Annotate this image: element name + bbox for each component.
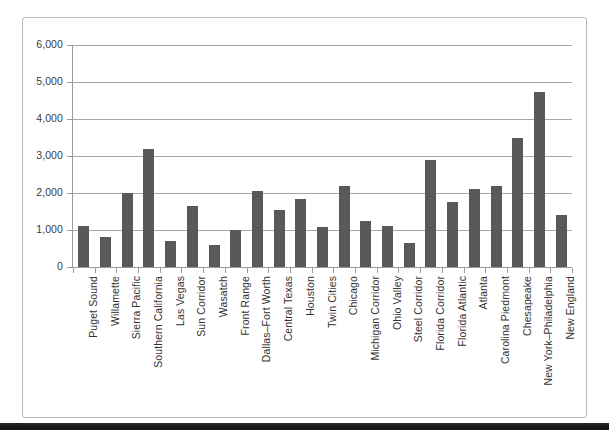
y-axis-tick [67, 267, 73, 268]
y-axis-label: 4,000 [1, 113, 63, 124]
x-axis-tick [420, 268, 421, 273]
bar [209, 245, 220, 267]
x-axis-tick [377, 268, 378, 273]
x-axis-label: Michigan Corridor [370, 276, 381, 361]
y-axis-labels: 01,0002,0003,0004,0005,0006,000 [0, 0, 63, 430]
bar [404, 243, 415, 267]
x-axis-label: Carolina Piedmont [500, 276, 511, 364]
bar [382, 226, 393, 267]
bar [100, 237, 111, 267]
x-axis-label: Southern California [153, 276, 164, 368]
bar [230, 230, 241, 267]
y-axis-label: 0 [1, 261, 63, 272]
x-axis-label: Houston [305, 276, 316, 316]
x-axis-tick [572, 268, 573, 273]
y-axis-label: 1,000 [1, 224, 63, 235]
x-axis-label: Central Texas [283, 276, 294, 341]
x-axis-tick [138, 268, 139, 273]
x-axis-label: Steel Corridor [413, 276, 424, 342]
x-axis-label: New England [565, 276, 576, 340]
x-axis-label: Chesapeake [522, 276, 533, 336]
bar [295, 199, 306, 267]
y-axis-label: 6,000 [1, 39, 63, 50]
x-axis-label: Ohio Valley [392, 276, 403, 330]
bar [317, 227, 328, 267]
x-axis-label: Twin Cities [327, 276, 338, 328]
x-axis-tick [529, 268, 530, 273]
bar [425, 160, 436, 267]
x-axis-tick [333, 268, 334, 273]
y-axis-label: 2,000 [1, 187, 63, 198]
y-axis-tick [67, 119, 73, 120]
x-axis-label: Florida Atlantic [457, 276, 468, 346]
bar [512, 138, 523, 267]
x-axis-tick [225, 268, 226, 273]
y-axis-tick [67, 230, 73, 231]
x-axis-label: Atlanta [478, 276, 489, 309]
x-axis-tick [247, 268, 248, 273]
x-axis-tick [290, 268, 291, 273]
x-axis-tick [181, 268, 182, 273]
bar [122, 193, 133, 267]
bar-series [73, 45, 572, 267]
x-axis-tick [442, 268, 443, 273]
y-axis-tick [67, 45, 73, 46]
x-axis-label: Sierra Pacific [131, 276, 142, 339]
bar [491, 186, 502, 267]
x-axis-tick [312, 268, 313, 273]
bar [165, 241, 176, 267]
bar-chart: 01,0002,0003,0004,0005,0006,000 Puget So… [0, 0, 609, 430]
bar [447, 202, 458, 267]
plot-area [73, 45, 572, 267]
x-axis-tick [116, 268, 117, 273]
bar [469, 189, 480, 267]
x-axis-tick [160, 268, 161, 273]
bar [143, 149, 154, 267]
bar [187, 206, 198, 267]
x-axis-tick [550, 268, 551, 273]
y-axis-label: 3,000 [1, 150, 63, 161]
x-axis-tick [507, 268, 508, 273]
bar [274, 210, 285, 267]
x-axis-label: Puget Sound [88, 276, 99, 338]
x-axis-label: Florida Corridor [435, 276, 446, 351]
x-axis-label: Chicago [348, 276, 359, 315]
x-axis-tick [268, 268, 269, 273]
y-axis-tick [67, 193, 73, 194]
x-axis-label: Willamette [110, 276, 121, 326]
x-axis-label: Wasatch [218, 276, 229, 317]
y-axis-label: 5,000 [1, 76, 63, 87]
x-axis-tick [203, 268, 204, 273]
bar [556, 215, 567, 267]
bar [534, 92, 545, 267]
bar [78, 226, 89, 267]
x-axis-tick [485, 268, 486, 273]
x-axis-tick [95, 268, 96, 273]
x-axis-line [72, 267, 572, 268]
x-axis-label: Las Vegas [175, 276, 186, 326]
x-axis-label: Sun Corridor [196, 276, 207, 337]
bar [360, 221, 371, 267]
x-axis-label: Dallas–Fort Worth [261, 276, 272, 362]
x-axis-tick [73, 268, 74, 273]
bar [339, 186, 350, 267]
x-axis-tick [398, 268, 399, 273]
bar [252, 191, 263, 267]
x-axis-label: New York–Philadelphia [543, 276, 554, 386]
scan-edge-band [0, 423, 609, 430]
x-axis-tick [464, 268, 465, 273]
y-axis-tick [67, 156, 73, 157]
y-axis-tick [67, 82, 73, 83]
x-axis-tick [355, 268, 356, 273]
x-axis-label: Front Range [240, 276, 251, 335]
